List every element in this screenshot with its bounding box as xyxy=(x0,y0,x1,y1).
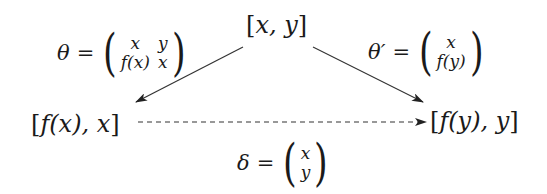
bracket-close: ] xyxy=(509,107,518,135)
delta-label: δ = ( x y ) xyxy=(237,138,331,188)
theta-matrix: x y f(x) x xyxy=(121,34,168,71)
node-top: [x, y] xyxy=(246,13,307,37)
node-right-content: f(y), y xyxy=(439,107,509,135)
matrix-cell: y xyxy=(301,163,311,182)
bracket-close: ] xyxy=(298,11,307,39)
matrix-cell: x xyxy=(158,53,168,72)
node-top-content: x, y xyxy=(255,11,297,39)
equals-sign: = xyxy=(392,40,410,64)
paren-open: ( xyxy=(283,138,297,188)
delta-matrix: x y xyxy=(301,144,311,181)
delta-symbol: δ xyxy=(237,151,250,175)
theta-prime-matrix: x f(y) xyxy=(437,33,466,70)
bracket-open: [ xyxy=(246,11,255,39)
matrix-cell: f(y) xyxy=(437,52,466,71)
matrix-cell: x xyxy=(301,144,311,163)
theta-prime-symbol: θ′ xyxy=(368,40,385,64)
node-left-content: f(x), x xyxy=(40,110,110,138)
node-left: [f(x), x] xyxy=(31,112,120,136)
equals-sign: = xyxy=(257,151,275,175)
paren-close: ) xyxy=(314,138,328,188)
theta-prime-label: θ′ = ( x f(y) ) xyxy=(368,27,486,77)
paren-open: ( xyxy=(103,28,117,78)
matrix-cell: f(x) xyxy=(121,53,150,72)
paren-close: ) xyxy=(171,28,185,78)
matrix-cell: y xyxy=(158,34,168,53)
node-right: [f(y), y] xyxy=(430,109,519,133)
bracket-close: ] xyxy=(110,110,119,138)
bracket-open: [ xyxy=(31,110,40,138)
theta-symbol: θ xyxy=(57,41,70,65)
paren-open: ( xyxy=(419,27,433,77)
equals-sign: = xyxy=(77,41,95,65)
theta-label: θ = ( x y f(x) x ) xyxy=(57,28,188,78)
matrix-cell: x xyxy=(121,34,150,53)
matrix-cell: x xyxy=(437,33,466,52)
paren-close: ) xyxy=(470,27,484,77)
bracket-open: [ xyxy=(430,107,439,135)
